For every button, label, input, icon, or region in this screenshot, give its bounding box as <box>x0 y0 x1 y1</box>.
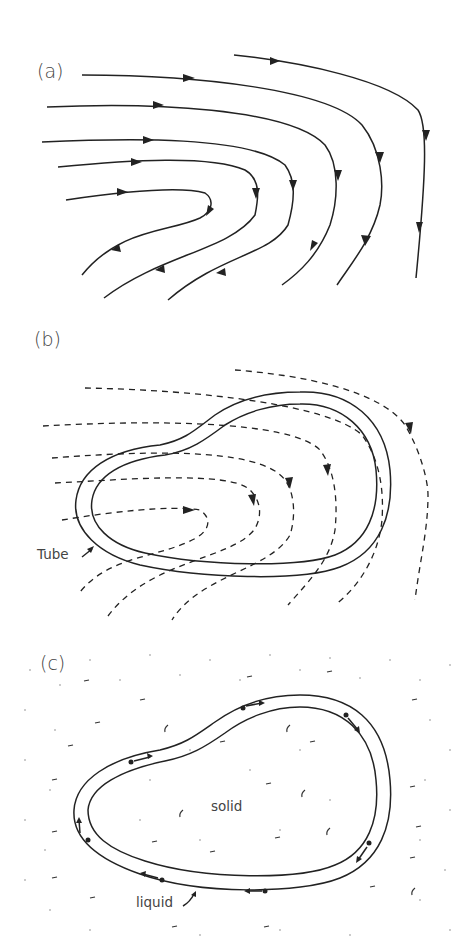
speckle-texture <box>24 654 451 936</box>
solid-liquid-diagram-c <box>0 630 468 946</box>
panel-c: (c) solid liquid <box>0 630 468 946</box>
liquid-particles <box>76 700 372 894</box>
panel-a: (a) <box>0 0 468 320</box>
tube-diagram-b <box>0 320 468 630</box>
panel-b: (b) Tube <box>0 320 468 630</box>
streamlines-a <box>0 0 468 320</box>
